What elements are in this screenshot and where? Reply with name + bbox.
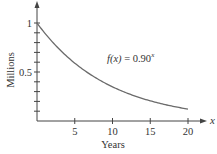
function-annotation: f(x) = 0.90x xyxy=(107,51,155,65)
x-axis-arrow-icon xyxy=(200,119,207,124)
y-tick-label: 0.5 xyxy=(19,67,32,78)
x-tick-label: 20 xyxy=(183,126,194,137)
y-axis-arrow-icon xyxy=(35,1,40,8)
x-axis-label: Years xyxy=(101,139,124,150)
x-tick-label: 15 xyxy=(145,126,156,137)
data-curve xyxy=(37,23,188,109)
exponential-decay-chart: 0.51 5101520 x Years Millions f(x) = 0.9… xyxy=(0,0,217,154)
x-tick-label: 10 xyxy=(107,126,118,137)
x-tick-label: 5 xyxy=(72,126,77,137)
y-axis-label: Millions xyxy=(5,52,16,88)
y-tick-label: 1 xyxy=(27,18,32,29)
x-axis-variable: x xyxy=(209,114,215,126)
